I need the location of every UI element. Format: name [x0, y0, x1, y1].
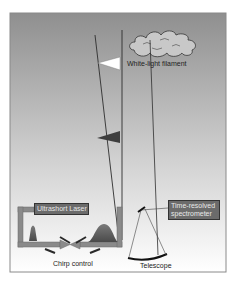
spectrometer-label-line2: spectrometer	[171, 210, 217, 218]
filament-label: White-light filament	[127, 60, 187, 68]
diagram-canvas	[0, 0, 236, 284]
laser-box: Ultrashort Laser	[34, 203, 89, 215]
telescope-label: Telescope	[140, 262, 172, 270]
spectrometer-label-line1: Time-resolved	[171, 202, 217, 210]
chirp-control-label: Chirp control	[53, 260, 93, 268]
laser-label: Ultrashort Laser	[37, 205, 87, 212]
spectrometer-box: Time-resolved spectrometer	[168, 200, 220, 220]
